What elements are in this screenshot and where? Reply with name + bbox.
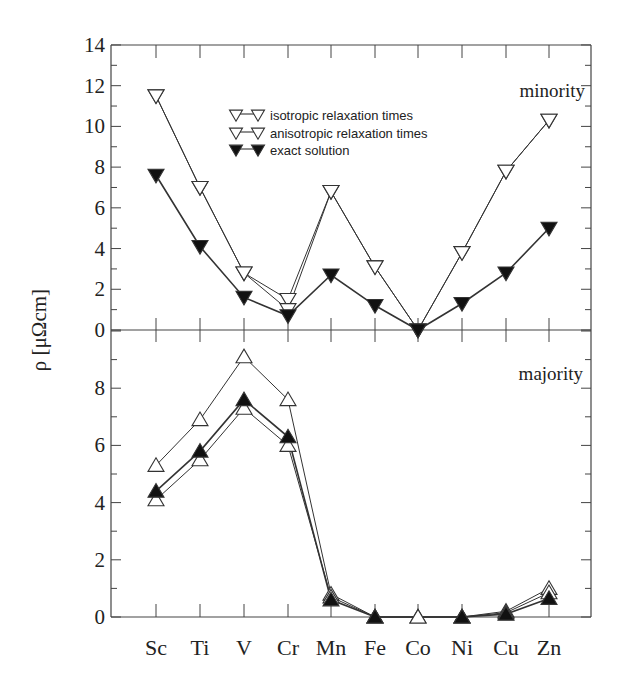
y-tick-label: 8 bbox=[95, 155, 106, 179]
markers-minority-2 bbox=[148, 169, 557, 337]
series-majority-2 bbox=[156, 400, 549, 617]
y-tick-label: 4 bbox=[95, 491, 106, 515]
open-triangle-marker bbox=[230, 128, 243, 139]
data-series bbox=[148, 90, 557, 623]
y-tick-label: 8 bbox=[95, 376, 106, 400]
markers-majority-0 bbox=[148, 349, 557, 623]
y-tick-label: 4 bbox=[95, 237, 106, 261]
markers-majority-2 bbox=[148, 392, 557, 623]
x-tick-label: Ti bbox=[191, 635, 210, 660]
filled-triangle-marker bbox=[410, 324, 426, 338]
filled-triangle-marker bbox=[252, 145, 265, 156]
open-triangle-marker bbox=[252, 110, 265, 121]
series-minority-2 bbox=[156, 175, 549, 330]
x-tick-labels: ScTiVCrMnFeCoNiCuZn bbox=[145, 635, 561, 660]
markers-majority-1 bbox=[148, 401, 557, 623]
filled-triangle-marker bbox=[230, 145, 243, 156]
open-triangle-marker bbox=[230, 110, 243, 121]
panel-labels: minoritymajority bbox=[519, 80, 586, 384]
open-triangle-marker bbox=[454, 247, 470, 261]
x-tick-label: Co bbox=[405, 635, 431, 660]
legend-item: anisotropic relaxation times bbox=[230, 126, 429, 141]
filled-triangle-marker bbox=[148, 169, 164, 183]
y-axis-label: ρ [μΩcm] bbox=[27, 289, 51, 371]
legend-item: isotropic relaxation times bbox=[230, 108, 414, 123]
y-tick-labels: 0246810121402468 bbox=[84, 33, 106, 629]
open-triangle-marker bbox=[148, 90, 164, 104]
panel-label-majority: majority bbox=[519, 363, 584, 384]
open-triangle-marker bbox=[236, 267, 252, 281]
legend: isotropic relaxation timesanisotropic re… bbox=[230, 108, 429, 158]
panel-label-minority: minority bbox=[520, 80, 586, 101]
filled-triangle-marker bbox=[454, 298, 470, 312]
open-triangle-marker bbox=[192, 412, 208, 426]
legend-label: isotropic relaxation times bbox=[270, 108, 414, 123]
x-tick-label: Ni bbox=[451, 635, 473, 660]
filled-triangle-marker bbox=[236, 291, 252, 305]
series-majority-0 bbox=[156, 357, 549, 617]
open-triangle-marker bbox=[323, 186, 339, 200]
y-tick-label: 14 bbox=[84, 33, 106, 57]
y-tick-label: 0 bbox=[95, 318, 106, 342]
x-tick-label: Cr bbox=[277, 635, 300, 660]
y-tick-label: 2 bbox=[95, 277, 106, 301]
filled-triangle-marker bbox=[498, 267, 514, 281]
x-tick-label: Sc bbox=[145, 635, 167, 660]
filled-triangle-marker bbox=[367, 300, 383, 314]
chart: 0246810121402468 ScTiVCrMnFeCoNiCuZn min… bbox=[0, 0, 623, 688]
legend-item: exact solution bbox=[230, 143, 350, 158]
y-tick-label: 10 bbox=[84, 114, 105, 138]
y-tick-label: 0 bbox=[95, 605, 106, 629]
legend-label: exact solution bbox=[270, 143, 350, 158]
open-triangle-marker bbox=[367, 261, 383, 275]
x-tick-label: Cu bbox=[493, 635, 519, 660]
y-tick-label: 6 bbox=[95, 196, 106, 220]
x-tick-label: Mn bbox=[316, 635, 347, 660]
x-tick-label: Zn bbox=[537, 635, 561, 660]
y-tick-label: 12 bbox=[84, 74, 105, 98]
filled-triangle-marker bbox=[280, 310, 296, 324]
open-triangle-marker bbox=[498, 165, 514, 179]
x-tick-label: Fe bbox=[364, 635, 386, 660]
y-tick-label: 2 bbox=[95, 548, 106, 572]
y-tick-label: 6 bbox=[95, 433, 106, 457]
x-tick-label: V bbox=[236, 635, 252, 660]
open-triangle-marker bbox=[236, 349, 252, 363]
open-triangle-marker bbox=[192, 181, 208, 195]
filled-triangle-marker bbox=[236, 392, 252, 406]
open-triangle-marker bbox=[541, 114, 557, 128]
open-triangle-marker bbox=[252, 128, 265, 139]
legend-label: anisotropic relaxation times bbox=[270, 126, 428, 141]
series-majority-1 bbox=[156, 408, 549, 617]
